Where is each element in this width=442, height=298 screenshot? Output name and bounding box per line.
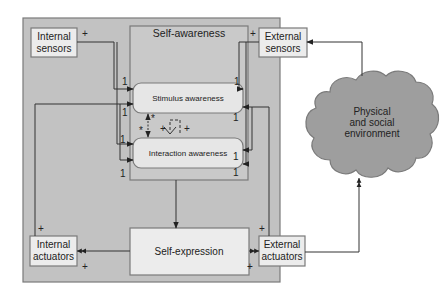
external-actuators-label-2: actuators xyxy=(261,251,302,262)
environment-label-1: Physical xyxy=(353,106,390,117)
interaction-awareness-box: Interaction awareness xyxy=(133,138,243,168)
mult-star: * xyxy=(139,125,143,136)
external-actuators-label-1: External xyxy=(264,239,301,250)
external-actuators-box: External actuators xyxy=(259,236,305,266)
mult-one: 1 xyxy=(120,168,126,179)
mult-plus: + xyxy=(250,28,256,39)
edge-external-actuators-to-environment xyxy=(305,178,359,252)
environment-label-3: environment xyxy=(344,128,399,139)
mult-plus: + xyxy=(38,223,44,234)
mult-one: 1 xyxy=(233,151,239,162)
mult-plus: + xyxy=(82,28,88,39)
interaction-awareness-label: Interaction awareness xyxy=(149,149,227,158)
mult-plus: + xyxy=(82,261,88,272)
mult-plus: + xyxy=(259,223,265,234)
external-sensors-label-2: sensors xyxy=(265,43,300,54)
self-awareness-architecture-diagram: Self-awareness Stimulus awareness Intera… xyxy=(0,0,442,298)
external-sensors-box: External sensors xyxy=(259,28,307,57)
self-expression-label: Self-expression xyxy=(155,246,224,257)
mult-one: 1 xyxy=(122,76,128,87)
edge-environment-to-external-sensors xyxy=(307,42,362,76)
mult-plus: + xyxy=(184,123,190,134)
environment-label-2: and social xyxy=(349,117,394,128)
internal-sensors-label-2: sensors xyxy=(36,43,71,54)
mult-one: 1 xyxy=(233,167,239,178)
mult-one: 1 xyxy=(120,134,126,145)
self-awareness-title: Self-awareness xyxy=(153,27,225,39)
mult-one: 1 xyxy=(234,76,240,87)
mult-one: 1 xyxy=(122,107,128,118)
environment-cloud: Physical and social environment xyxy=(306,71,439,177)
self-expression-box: Self-expression xyxy=(130,228,249,275)
internal-actuators-label-2: actuators xyxy=(33,251,74,262)
internal-sensors-label-1: Internal xyxy=(37,31,70,42)
mult-plus: + xyxy=(160,123,166,134)
internal-actuators-box: Internal actuators xyxy=(30,236,77,266)
stimulus-awareness-box: Stimulus awareness xyxy=(133,83,243,113)
internal-actuators-label-1: Internal xyxy=(37,239,70,250)
mult-plus: + xyxy=(247,261,253,272)
external-sensors-label-1: External xyxy=(265,31,302,42)
mult-one: 1 xyxy=(233,112,239,123)
stimulus-awareness-label: Stimulus awareness xyxy=(152,94,224,103)
mult-star: * xyxy=(151,113,155,124)
internal-sensors-box: Internal sensors xyxy=(31,28,77,57)
